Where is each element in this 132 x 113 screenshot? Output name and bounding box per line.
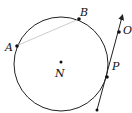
label-o: O — [123, 24, 132, 37]
geometry-diagram: A B N P O — [0, 0, 132, 113]
label-p: P — [111, 60, 120, 73]
point-p — [105, 75, 109, 79]
point-n — [60, 61, 63, 64]
label-b: B — [79, 6, 88, 19]
line-end-point — [96, 109, 99, 112]
circle — [14, 17, 108, 111]
label-n: N — [54, 67, 65, 80]
label-a: A — [4, 41, 13, 54]
point-a — [15, 44, 19, 48]
point-o — [117, 30, 121, 34]
